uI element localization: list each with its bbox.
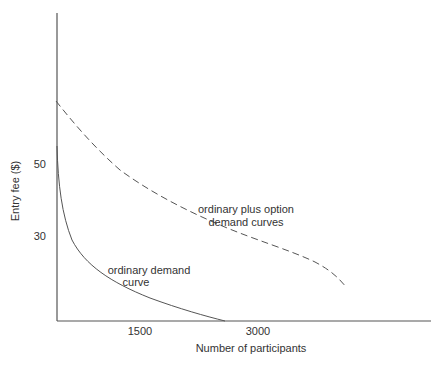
ytick-50: 50 <box>34 158 46 170</box>
ordinary-curve-annotation-line1: ordinary demand <box>108 264 191 276</box>
option-curve-annotation-line2: demand curves <box>208 216 284 228</box>
ordinary-demand-curve <box>57 146 225 321</box>
xtick-3000: 3000 <box>246 325 270 337</box>
x-axis-label: Number of participants <box>196 342 307 354</box>
option-demand-curve <box>56 101 346 287</box>
demand-chart: 50 30 1500 3000 Number of participants E… <box>0 0 441 365</box>
y-axis-label: Entry fee ($) <box>9 161 21 222</box>
xtick-1500: 1500 <box>128 325 152 337</box>
ytick-30: 30 <box>34 230 46 242</box>
ordinary-curve-annotation-line2: curve <box>123 276 150 288</box>
option-curve-annotation-line1: ordinary plus option <box>198 203 294 215</box>
